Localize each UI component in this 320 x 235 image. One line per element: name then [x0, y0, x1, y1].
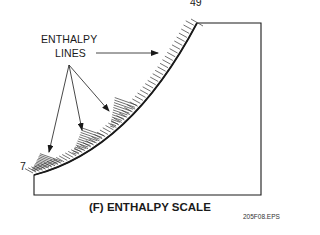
arrow-mid: [69, 65, 109, 111]
callout-label-enthalpy: ENTHALPY: [41, 34, 97, 45]
file-id: 205F08.EPS: [243, 214, 280, 221]
callout-label-lines: LINES: [55, 48, 86, 59]
scale-min-label: 7: [20, 161, 26, 172]
callout-arrows: [49, 53, 158, 152]
arrow-lower-mid: [69, 65, 82, 130]
saturation-curve: [34, 23, 197, 175]
scale-max-label: 49: [190, 0, 202, 8]
figure-title: (F) ENTHALPY SCALE: [89, 202, 211, 214]
arrow-lower-left: [49, 65, 69, 152]
